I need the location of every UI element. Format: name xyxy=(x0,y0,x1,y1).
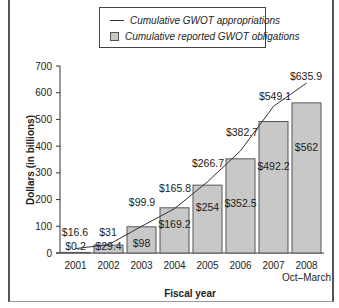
x-tick-label: 2003 xyxy=(130,260,153,271)
y-tick-label: 600 xyxy=(35,87,52,98)
x-tick-label: 2008 xyxy=(295,260,318,271)
bar-value-label: $169.2 xyxy=(158,218,190,230)
bar-value-label: $254 xyxy=(196,201,220,213)
bar-2007 xyxy=(259,122,288,253)
x-ticks: 20012002200320042005200620072008Oct–Marc… xyxy=(64,260,331,283)
line-value-label: $31 xyxy=(99,226,117,238)
y-tick-label: 0 xyxy=(46,248,52,259)
line-value-label: $16.6 xyxy=(62,226,88,238)
x-tick-label: 2006 xyxy=(229,260,252,271)
line-value-label: $382.7 xyxy=(226,126,258,138)
bar-value-label: $98 xyxy=(133,237,151,249)
bar-value-label: $352.5 xyxy=(224,197,256,209)
line-value-label: $165.8 xyxy=(159,182,191,194)
y-tick-label: 100 xyxy=(35,221,52,232)
x-tick-sublabel: Oct–March xyxy=(282,272,331,283)
x-axis-title: Fiscal year xyxy=(164,288,216,299)
line-value-label: $549.1 xyxy=(259,90,291,102)
bar-2008 xyxy=(292,103,321,253)
chart-plot: 0100200300400500600700 $0.2$29.4$98$169.… xyxy=(0,0,339,308)
y-tick-label: 300 xyxy=(35,167,52,178)
y-tick-label: 700 xyxy=(35,61,52,72)
bar-value-label: $29.4 xyxy=(95,240,121,252)
x-tick-label: 2004 xyxy=(163,260,186,271)
y-axis-title: Dollars (in billions) xyxy=(25,115,36,205)
x-tick-label: 2005 xyxy=(196,260,219,271)
y-tick-label: 200 xyxy=(35,194,52,205)
bar-2005 xyxy=(193,185,222,253)
y-ticks: 0100200300400500600700 xyxy=(35,61,60,259)
y-tick-label: 500 xyxy=(35,114,52,125)
line-value-label: $266.7 xyxy=(192,157,224,169)
x-tick-label: 2007 xyxy=(262,260,285,271)
bar-2001 xyxy=(61,252,90,253)
line-value-label: $99.9 xyxy=(129,196,155,208)
line-value-label: $635.9 xyxy=(290,70,322,82)
bar-value-label: $492.2 xyxy=(257,160,289,172)
x-tick-label: 2002 xyxy=(97,260,120,271)
y-tick-label: 400 xyxy=(35,141,52,152)
bar-value-label: $0.2 xyxy=(65,240,86,252)
bar-value-label: $562 xyxy=(295,141,319,153)
x-tick-label: 2001 xyxy=(64,260,87,271)
